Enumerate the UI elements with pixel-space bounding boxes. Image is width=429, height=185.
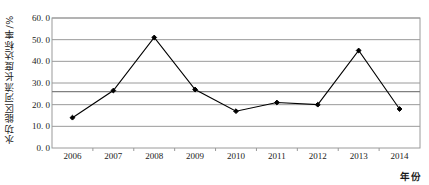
x-tick-label: 2012 — [309, 151, 327, 161]
x-tick-label: 2008 — [145, 151, 163, 161]
data-markers — [70, 35, 402, 120]
data-point — [234, 109, 239, 114]
x-tick-label: 2013 — [350, 151, 368, 161]
x-tick-label: 2014 — [391, 151, 409, 161]
x-tick-label: 2009 — [186, 151, 204, 161]
x-axis-tick-labels: 200620072008200920102011201220132014 — [0, 151, 429, 167]
x-tick-label: 2006 — [63, 151, 81, 161]
x-tick-label: 2007 — [104, 151, 122, 161]
chart-container: 水功能区河流长度达标率/% 0. 010. 020. 030. 040. 050… — [0, 0, 429, 185]
data-line — [72, 38, 399, 118]
x-axis-title: 年份 — [400, 169, 421, 183]
x-tick-label: 2010 — [227, 151, 245, 161]
x-tick-label: 2011 — [268, 151, 286, 161]
